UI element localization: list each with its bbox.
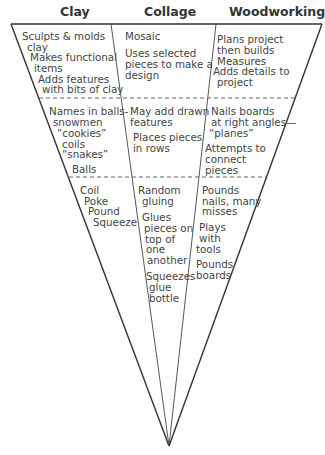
- wood-l1-5: project: [217, 77, 253, 88]
- wood-l3-8: boards: [196, 270, 231, 281]
- header-collage: Collage: [144, 4, 196, 19]
- header-clay: Clay: [60, 4, 90, 19]
- wood-l3-3: misses: [202, 206, 237, 217]
- collage-l1-1: Mosaic: [125, 31, 160, 42]
- clay-l2-5: “snakes”: [62, 149, 108, 160]
- collage-l3-7: another: [147, 255, 187, 266]
- collage-l2-2: features: [130, 117, 173, 128]
- wood-l2-3: “planes”: [209, 128, 254, 139]
- clay-l1-6: with bits of clay: [42, 84, 123, 95]
- header-woodworking: Woodworking: [229, 4, 325, 19]
- clay-l2-6: Balls: [72, 164, 96, 175]
- collage-l3-2: gluing: [142, 196, 174, 207]
- clay-l3-4: Squeeze: [93, 217, 137, 228]
- collage-l2-4: in rows: [133, 143, 170, 154]
- collage-l1-4: design: [125, 70, 159, 81]
- wood-l2-6: pieces: [205, 165, 238, 176]
- wood-l3-6: tools: [196, 244, 221, 255]
- collage-l3-10: bottle: [149, 293, 179, 304]
